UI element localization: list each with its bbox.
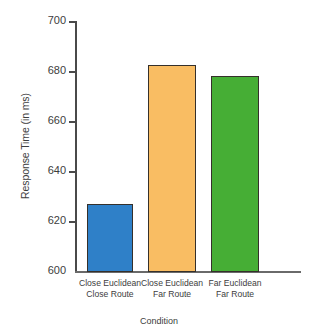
bar-chart: Response Time (in ms) 700 680 660 640 62… bbox=[0, 0, 318, 336]
bar-close-euclidean-close-route[interactable] bbox=[87, 204, 133, 272]
x-axis-title: Condition bbox=[0, 316, 318, 326]
plot-area bbox=[75, 21, 301, 272]
x-category-label-3: Far Euclidean Far Route bbox=[192, 278, 278, 300]
y-tick-label-660: 660 bbox=[24, 115, 66, 126]
y-tick-label-680: 680 bbox=[24, 65, 66, 76]
x-category-label-3-line1: Far Euclidean bbox=[208, 278, 261, 288]
x-category-label-3-line2: Far Route bbox=[192, 289, 278, 300]
y-tick-label-620: 620 bbox=[24, 215, 66, 226]
y-tick-label-700: 700 bbox=[24, 15, 66, 26]
y-tick-label-640: 640 bbox=[24, 165, 66, 176]
bar-far-euclidean-far-route[interactable] bbox=[211, 76, 259, 272]
y-tick-label-600: 600 bbox=[24, 265, 66, 276]
bar-close-euclidean-far-route[interactable] bbox=[148, 65, 196, 272]
